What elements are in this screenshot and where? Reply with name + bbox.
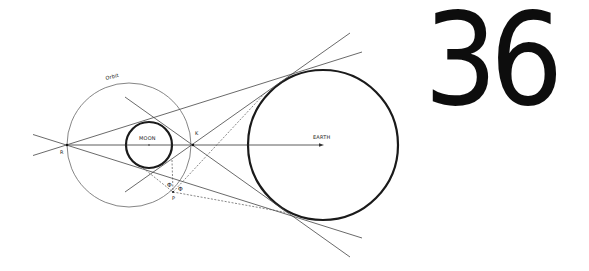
earth-label: EARTH bbox=[313, 134, 331, 140]
point-p-label: P bbox=[172, 195, 175, 201]
chapter-number: 36 bbox=[424, 0, 556, 124]
axis-arrowhead bbox=[319, 143, 324, 146]
moon-center-dot bbox=[148, 144, 150, 146]
k-line-ascending bbox=[125, 33, 350, 192]
angle-phi-left-label: Φ bbox=[167, 181, 172, 188]
angle-phi-right-label: Φ bbox=[178, 185, 183, 192]
orbit-label: Orbit bbox=[105, 72, 120, 81]
point-r bbox=[66, 144, 68, 146]
dashed-moon-to-p bbox=[143, 168, 173, 192]
point-r-label: R bbox=[60, 149, 64, 155]
point-k-label: K bbox=[195, 130, 199, 136]
dashed-vertical bbox=[172, 160, 173, 192]
point-p bbox=[172, 191, 174, 193]
k-line-descending bbox=[125, 97, 350, 257]
moon-label: MOON bbox=[139, 135, 156, 141]
point-k bbox=[192, 144, 194, 146]
